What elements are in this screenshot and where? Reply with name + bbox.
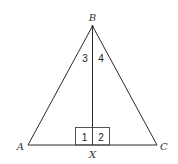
vertex-label-x: X [88, 149, 97, 160]
vertex-b-point [91, 25, 93, 27]
angle-label-2: 2 [98, 132, 104, 143]
angle-label-3: 3 [82, 53, 88, 64]
angle-label-4: 4 [98, 53, 104, 64]
triangle-diagram: B A C X 3 4 1 2 [0, 0, 178, 164]
angle-label-1: 1 [82, 132, 88, 143]
vertex-label-b: B [88, 12, 96, 23]
vertex-label-a: A [16, 141, 24, 152]
vertex-label-c: C [160, 141, 168, 152]
